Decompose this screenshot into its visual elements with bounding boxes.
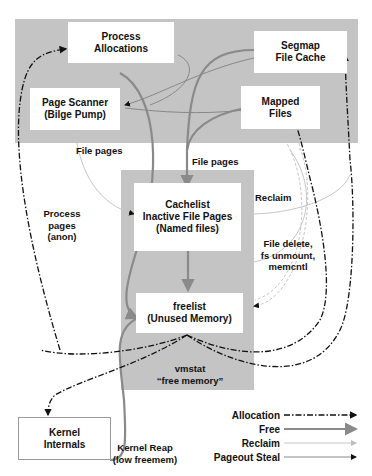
mapped-files-node: Mapped Files bbox=[241, 86, 320, 129]
cachelist-node: Cachelist Inactive File Pages (Named fil… bbox=[134, 183, 241, 251]
file-pages-center-label: File pages bbox=[192, 156, 238, 168]
legend-item-allocation: Allocation bbox=[200, 409, 370, 423]
legend-item-reclaim: Reclaim bbox=[200, 437, 370, 451]
free-line-icon bbox=[200, 423, 372, 437]
vmstat-free-memory-label: vmstat “free memory” bbox=[150, 363, 230, 386]
reclaim-label: Reclaim bbox=[255, 192, 291, 204]
kernel-reap-label: Kernel Reap (low freemem) bbox=[110, 442, 180, 465]
segmap-file-cache-node: Segmap File Cache bbox=[254, 31, 347, 73]
page-scanner-node: Page Scanner (Bilge Pump) bbox=[30, 88, 120, 130]
file-delete-label: File delete, fs unmount, memcntl bbox=[256, 238, 320, 273]
legend-item-pageout-steal: Pageout Steal bbox=[200, 451, 370, 465]
freelist-node: freelist (Unused Memory) bbox=[136, 293, 243, 333]
kernel-internals-node: Kernel Internals bbox=[18, 417, 111, 460]
reclaim-line-icon bbox=[200, 437, 372, 451]
process-allocations-node: Process Allocations bbox=[68, 22, 174, 63]
file-pages-left-label: File pages bbox=[76, 145, 122, 157]
allocation-line-icon bbox=[200, 409, 372, 423]
pageout-steal-line-icon bbox=[200, 451, 372, 465]
process-pages-label: Process pages (anon) bbox=[42, 208, 82, 243]
legend-item-free: Free bbox=[200, 423, 370, 437]
